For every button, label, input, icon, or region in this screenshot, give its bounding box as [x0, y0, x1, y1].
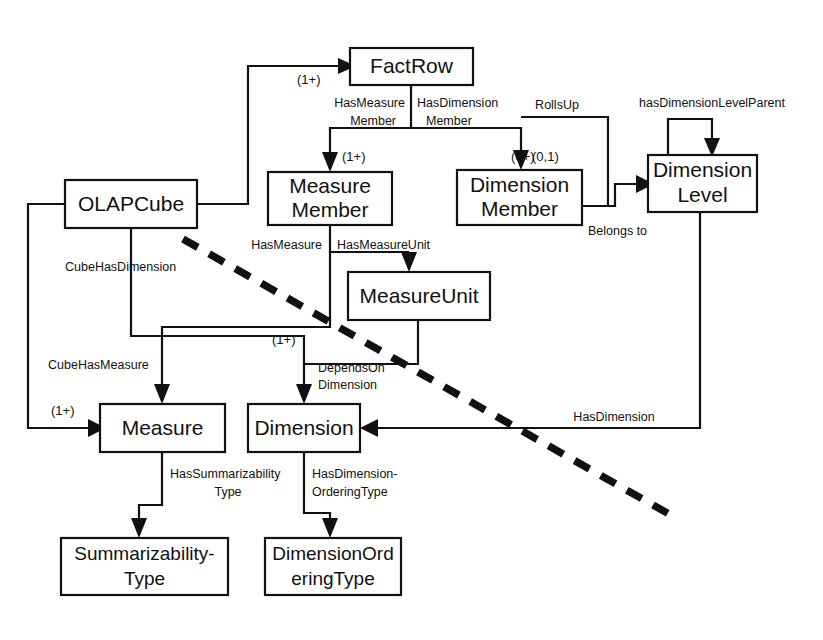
entity-factrow[interactable]: FactRow [350, 48, 473, 85]
entity-dimension-ordering-type-label-line1: DimensionOrd [272, 543, 393, 564]
entity-dimension-ordering-type[interactable]: DimensionOrd eringType [265, 538, 401, 595]
entity-measure-member-label-line2: Member [291, 198, 368, 221]
label-has-measure-member-line1: HasMeasure [334, 96, 405, 110]
arrowhead-measure [154, 384, 170, 404]
entity-dimension-level-label-line1: Dimension [653, 158, 752, 181]
label-has-dimension: HasDimension [573, 410, 654, 424]
connector-has-summarizability-type [131, 452, 162, 538]
arrowhead-measure-unit [401, 252, 417, 272]
label-depends-on-dimension-line2: Dimension [318, 378, 377, 392]
entity-measure-member[interactable]: Measure Member [268, 172, 392, 225]
label-belongs-to: Belongs to [588, 224, 647, 238]
entity-measure-unit[interactable]: MeasureUnit [348, 272, 490, 320]
entity-dimension-level-label-line2: Level [677, 183, 727, 206]
entity-dimension-member-label-line2: Member [481, 197, 558, 220]
entity-dimension-member[interactable]: Dimension Member [457, 170, 582, 225]
connector-has-measure-member [322, 128, 411, 172]
arrowhead-dimension [296, 384, 312, 404]
arrowhead-summarizability-type [131, 518, 147, 538]
label-has-summarizability-type-line2: Type [214, 485, 241, 499]
label-cube-has-measure: CubeHasMeasure [48, 358, 149, 372]
diagram-canvas: FactRow OLAPCube Measure Member Dimensio… [0, 0, 823, 640]
connector-cube-has-measure [28, 204, 106, 437]
entity-dimension-ordering-type-label-line2: eringType [291, 568, 374, 589]
label-has-dimension-level-parent: hasDimensionLevelParent [639, 96, 785, 110]
label-has-summarizability-type: HasSummarizability Type [170, 467, 281, 499]
label-has-measure-unit: HasMeasureUnit [337, 238, 431, 252]
entity-measure-member-label-line1: Measure [289, 174, 371, 197]
cardinality-measure: (1+) [51, 403, 74, 418]
label-depends-on-dimension: DependsOn Dimension [318, 361, 385, 392]
cardinality-dimension-member-2: (0,1) [532, 149, 559, 164]
entity-dimension-label: Dimension [254, 416, 353, 439]
arrowhead-measure-member [322, 152, 338, 172]
entity-olapcube[interactable]: OLAPCube [65, 180, 197, 228]
entity-summarizability-type-label-line2: Type [124, 568, 165, 589]
entity-dimension-level[interactable]: Dimension Level [648, 155, 757, 212]
label-has-dimension-ordering-type-line2: OrderingType [312, 485, 388, 499]
connector-belongs-to [582, 175, 654, 206]
entity-summarizability-type-label-line1: Summarizability- [74, 543, 214, 564]
label-has-summarizability-type-line1: HasSummarizability [170, 467, 281, 481]
cardinality-factrow: (1+) [297, 72, 320, 87]
label-has-dimension-member: HasDimension Member [417, 96, 498, 128]
entity-summarizability-type[interactable]: Summarizability- Type [61, 538, 228, 595]
entity-measure-label: Measure [122, 416, 204, 439]
label-has-measure: HasMeasure [251, 238, 322, 252]
label-cube-has-dimension: CubeHasDimension [65, 260, 176, 274]
cardinality-dimension-member: (0+) [511, 149, 534, 164]
label-has-measure-member-line2: Member [350, 114, 396, 128]
connector-cube-has-dimension [131, 228, 312, 404]
entity-measure[interactable]: Measure [100, 404, 225, 452]
entity-factrow-label: FactRow [370, 54, 454, 77]
cardinality-dimension: (1+) [272, 332, 295, 347]
arrowhead-dimension-ordering-type [322, 518, 338, 538]
label-has-dimension-member-line1: HasDimension [417, 96, 498, 110]
label-has-measure-member: HasMeasure Member [334, 96, 405, 128]
cardinality-measure-member: (1+) [342, 149, 365, 164]
entity-olapcube-label: OLAPCube [78, 192, 184, 215]
label-has-dimension-ordering-type: HasDimension- OrderingType [312, 467, 397, 499]
label-has-dimension-member-line2: Member [426, 114, 472, 128]
label-rolls-up: RollsUp [535, 98, 579, 112]
connector-has-dimension-level-parent [668, 119, 720, 157]
arrowhead-dimension-right [360, 419, 378, 437]
label-has-dimension-ordering-type-line1: HasDimension- [312, 467, 397, 481]
entity-measure-unit-label: MeasureUnit [359, 284, 478, 307]
entity-dimension[interactable]: Dimension [248, 404, 360, 452]
label-depends-on-dimension-line1: DependsOn [318, 361, 385, 375]
entity-dimension-member-label-line1: Dimension [470, 173, 569, 196]
